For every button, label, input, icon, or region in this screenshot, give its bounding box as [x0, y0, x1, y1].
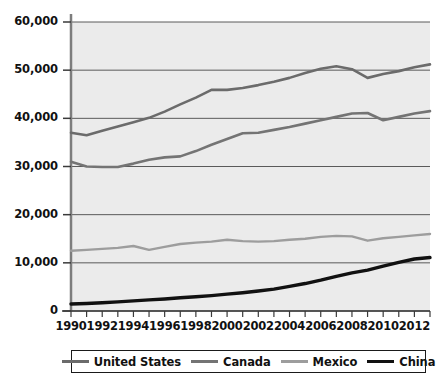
x-axis-tick-label: 1996	[148, 321, 182, 333]
y-axis-tick-label: 20,000	[4, 209, 58, 221]
x-axis-tick-label: 2002	[241, 321, 275, 333]
x-axis-tick-label: 2010	[366, 321, 400, 333]
y-axis-tick-label: 10,000	[4, 257, 58, 269]
legend-item: Mexico	[281, 355, 358, 369]
y-axis-tick-label: 40,000	[4, 112, 58, 124]
x-axis-tick-label: 2012	[397, 321, 431, 333]
x-axis-tick-label: 2006	[304, 321, 338, 333]
legend-swatch-icon	[367, 360, 394, 364]
y-axis-tick-label: 0	[4, 305, 58, 317]
legend-item: United States	[62, 355, 181, 369]
legend-label: China	[399, 355, 435, 369]
line-chart: 010,00020,00030,00040,00050,00060,000 19…	[0, 0, 442, 378]
x-axis-tick-label: 2008	[335, 321, 369, 333]
legend-item: China	[367, 355, 435, 369]
y-axis-tick-label: 60,000	[4, 16, 58, 28]
x-axis-tick-label: 2000	[210, 321, 244, 333]
x-axis-tick-label: 1994	[116, 321, 150, 333]
legend-item: Canada	[191, 355, 271, 369]
x-axis-tick-label: 2004	[273, 321, 307, 333]
legend-swatch-icon	[62, 360, 89, 363]
x-axis-tick-label: 1998	[179, 321, 213, 333]
legend-label: United States	[94, 355, 181, 369]
legend-label: Mexico	[313, 355, 358, 369]
y-axis-label-group: 010,00020,00030,00040,00050,00060,000	[0, 0, 58, 378]
chart-legend: United StatesCanadaMexicoChina	[71, 350, 426, 373]
legend-swatch-icon	[191, 360, 218, 363]
x-axis-ticks	[71, 311, 430, 317]
x-axis-tick-label: 1990	[54, 321, 88, 333]
legend-swatch-icon	[281, 360, 308, 363]
y-axis-tick-label: 50,000	[4, 64, 58, 76]
legend-label: Canada	[223, 355, 271, 369]
y-axis-tick-label: 30,000	[4, 161, 58, 173]
x-axis-tick-label: 1992	[85, 321, 119, 333]
